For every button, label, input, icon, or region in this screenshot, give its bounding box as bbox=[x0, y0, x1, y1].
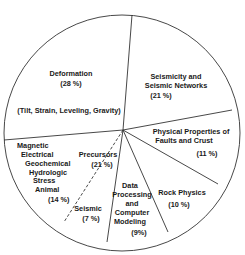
label-rock-physics: Rock Physics (10 %) bbox=[158, 188, 205, 209]
svg-text:Seismic Networks: Seismic Networks bbox=[145, 81, 207, 90]
svg-text:Physical Properties of: Physical Properties of bbox=[153, 127, 230, 136]
svg-text:Electrical: Electrical bbox=[21, 150, 53, 159]
label-precursors: Precursors (21 %) bbox=[79, 150, 118, 169]
svg-text:Deformation: Deformation bbox=[50, 69, 93, 78]
svg-text:(11 %): (11 %) bbox=[196, 149, 218, 158]
svg-text:Rock Physics: Rock Physics bbox=[158, 188, 205, 197]
svg-text:(7 %): (7 %) bbox=[82, 214, 100, 223]
svg-text:Precursors: Precursors bbox=[79, 150, 118, 159]
label-deformation: Deformation (28 %) (Tilt, Strain, Leveli… bbox=[17, 69, 121, 115]
divider-magnetic-deformation bbox=[4, 130, 123, 140]
svg-text:(21 %): (21 %) bbox=[91, 160, 113, 169]
svg-text:(21 %): (21 %) bbox=[150, 91, 172, 100]
svg-text:(10 %): (10 %) bbox=[168, 200, 190, 209]
svg-text:Stress: Stress bbox=[33, 176, 55, 185]
svg-text:Magnetic: Magnetic bbox=[17, 141, 49, 150]
svg-text:Modeling: Modeling bbox=[114, 217, 146, 226]
svg-text:Data: Data bbox=[122, 181, 139, 190]
label-seismicity: Seismicity and Seismic Networks (21 %) bbox=[145, 72, 207, 100]
svg-text:(Tilt, Strain, Leveling, Gravi: (Tilt, Strain, Leveling, Gravity) bbox=[17, 106, 121, 115]
svg-text:Computer: Computer bbox=[115, 208, 150, 217]
svg-text:Faults and Crust: Faults and Crust bbox=[155, 136, 213, 145]
svg-text:Geochemical: Geochemical bbox=[25, 159, 70, 168]
label-data-processing: Data Processing and Computer Modeling (9… bbox=[112, 181, 151, 237]
svg-text:(14 %): (14 %) bbox=[48, 195, 70, 204]
label-magnetic: Magnetic Electrical Geochemical Hydrolog… bbox=[17, 141, 70, 204]
divider-deformation-seismicity bbox=[123, 15, 132, 130]
svg-text:Seismic: Seismic bbox=[74, 204, 102, 213]
svg-text:Processing: Processing bbox=[112, 190, 151, 199]
label-seismic: Seismic (7 %) bbox=[74, 204, 102, 223]
svg-text:and: and bbox=[126, 199, 139, 208]
svg-text:Seismicity and: Seismicity and bbox=[150, 72, 201, 81]
svg-text:(9%): (9%) bbox=[131, 228, 147, 237]
svg-text:(28 %): (28 %) bbox=[60, 79, 82, 88]
pie-chart: Deformation (28 %) (Tilt, Strain, Leveli… bbox=[0, 0, 245, 255]
svg-text:Animal: Animal bbox=[35, 185, 59, 194]
